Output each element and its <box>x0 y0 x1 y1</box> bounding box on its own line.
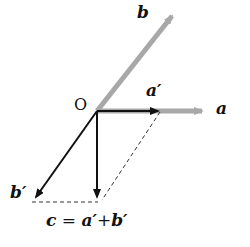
origin-label: O <box>74 97 87 113</box>
dashed-line-a-prime-to-c <box>102 112 160 200</box>
label-b-prime: b′ <box>10 184 26 201</box>
label-a-prime: a′ <box>146 82 162 99</box>
label-b: b <box>137 4 149 21</box>
equation-b-prime: b′ <box>111 210 127 230</box>
equation: c = a′+b′ <box>46 212 128 229</box>
equation-a-prime: a′ <box>81 210 97 230</box>
equation-c: c <box>46 210 56 230</box>
equation-equals: = <box>56 210 81 230</box>
label-a: a <box>216 100 227 117</box>
vector-b-prime <box>36 111 97 197</box>
equation-plus: + <box>97 210 111 230</box>
